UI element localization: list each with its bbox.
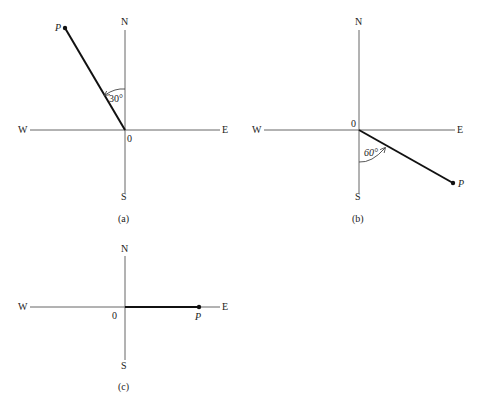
caption-b: (b) <box>352 213 364 225</box>
point-p <box>451 181 455 185</box>
caption-a: (a) <box>118 213 129 225</box>
vector-op <box>65 28 125 130</box>
label-origin: 0 <box>351 118 356 129</box>
label-w: W <box>18 124 28 135</box>
caption-c: (c) <box>118 381 129 393</box>
label-n: N <box>121 16 128 27</box>
label-n: N <box>355 16 362 27</box>
label-origin: 0 <box>127 133 132 144</box>
label-e: E <box>222 124 228 135</box>
label-s: S <box>121 360 127 371</box>
angle-label: 30° <box>109 93 123 104</box>
panel-b: N S E W 0 P 60° (b) <box>252 16 464 225</box>
label-s: S <box>121 191 127 202</box>
label-e: E <box>457 124 463 135</box>
angle-label: 60° <box>364 147 378 158</box>
label-origin: 0 <box>112 310 117 321</box>
compass-diagrams: N S E W 0 P 30° (a) N S E W 0 P 60° (b) … <box>0 0 481 397</box>
point-p <box>63 26 67 30</box>
label-w: W <box>252 124 262 135</box>
point-p <box>197 305 201 309</box>
label-w: W <box>18 301 28 312</box>
label-e: E <box>222 301 228 312</box>
panel-c: N S E W 0 P (c) <box>18 243 228 393</box>
label-p: P <box>457 178 464 189</box>
label-n: N <box>121 243 128 254</box>
label-p: P <box>54 22 61 33</box>
panel-a: N S E W 0 P 30° (a) <box>18 16 228 225</box>
label-s: S <box>355 191 361 202</box>
label-p: P <box>194 311 201 322</box>
